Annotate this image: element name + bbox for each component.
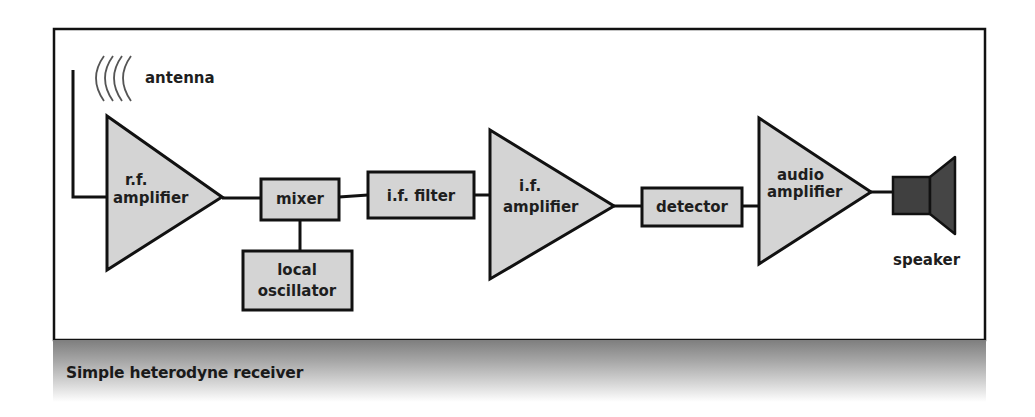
local-oscillator-block: local oscillator bbox=[243, 251, 352, 310]
rf-amplifier-label-line2: amplifier bbox=[113, 189, 189, 207]
detector-label: detector bbox=[656, 198, 729, 216]
if-amplifier-label-line1: i.f. bbox=[519, 177, 541, 195]
audio-amplifier-label-line1: audio bbox=[777, 166, 824, 184]
speaker-label: speaker bbox=[893, 251, 961, 269]
detector-block: detector bbox=[642, 188, 742, 226]
local-oscillator-label-line1: local bbox=[277, 261, 317, 279]
figure-caption: Simple heterodyne receiver bbox=[66, 364, 303, 382]
antenna-label: antenna bbox=[145, 69, 215, 87]
rf-amplifier-label-line1: r.f. bbox=[125, 171, 147, 189]
local-oscillator-label-line2: oscillator bbox=[258, 282, 337, 300]
if-amplifier-label-line2: amplifier bbox=[503, 198, 579, 216]
mixer-block: mixer bbox=[261, 179, 339, 220]
if-filter-block: i.f. filter bbox=[368, 172, 474, 218]
audio-amplifier-label-line2: amplifier bbox=[767, 183, 843, 201]
mixer-label: mixer bbox=[276, 190, 325, 208]
if-filter-label: i.f. filter bbox=[387, 187, 456, 205]
